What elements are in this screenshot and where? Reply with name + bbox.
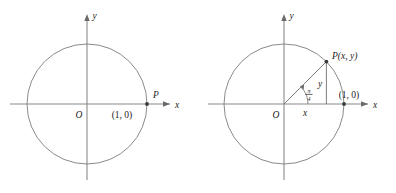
horizontal-leg-label-right: x [302, 108, 308, 118]
y-axis-arrow-right [281, 14, 286, 21]
y-axis-label-right: y [288, 11, 294, 21]
point-coordinate-label-right: (1, 0) [339, 90, 360, 101]
vertical-leg-label-right: y [317, 79, 323, 89]
x-axis-label-right: x [372, 100, 378, 110]
angle-denominator: 4 [308, 96, 311, 102]
point-p-label-left: P [152, 90, 159, 100]
angle-value-label-right: π 4 [306, 88, 313, 103]
angle-numerator: π [307, 88, 311, 94]
y-axis-arrow-left [84, 14, 89, 21]
origin-label-left: O [76, 110, 83, 120]
x-axis-arrow-left [163, 101, 170, 107]
point-one-zero-marker-right [342, 102, 346, 106]
point-p-label-right: P(x, y) [331, 51, 357, 62]
x-axis-label-left: x [174, 100, 180, 110]
point-p-marker-right [325, 60, 329, 64]
point-p-marker-left [145, 102, 149, 106]
diagram-left-unit-circle: x y O P (1, 0) [0, 0, 198, 193]
y-axis-label-left: y [91, 11, 97, 21]
x-axis-arrow-right [361, 101, 368, 107]
origin-label-right: O [273, 110, 280, 120]
diagram-right-unit-circle-angle: x y O P(x, y) (1, 0) x y π 4 [198, 0, 396, 193]
unit-circle-figure: x y O P (1, 0) x y O P(x, y) (1, 0) [0, 0, 396, 193]
point-coordinate-label-left: (1, 0) [112, 110, 133, 121]
